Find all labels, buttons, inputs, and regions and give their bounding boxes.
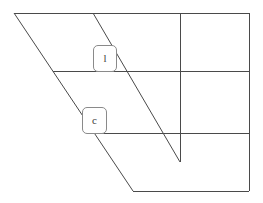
- diagram-svg: [0, 0, 263, 203]
- label-box-c-text: c: [92, 115, 97, 126]
- diagram-canvas: l c: [0, 0, 263, 203]
- interior-diagonal-line: [93, 13, 180, 162]
- label-box-c[interactable]: c: [82, 107, 107, 134]
- left-diagonal-edge-line: [14, 13, 133, 191]
- label-box-l[interactable]: l: [93, 45, 117, 72]
- label-box-l-text: l: [103, 53, 106, 64]
